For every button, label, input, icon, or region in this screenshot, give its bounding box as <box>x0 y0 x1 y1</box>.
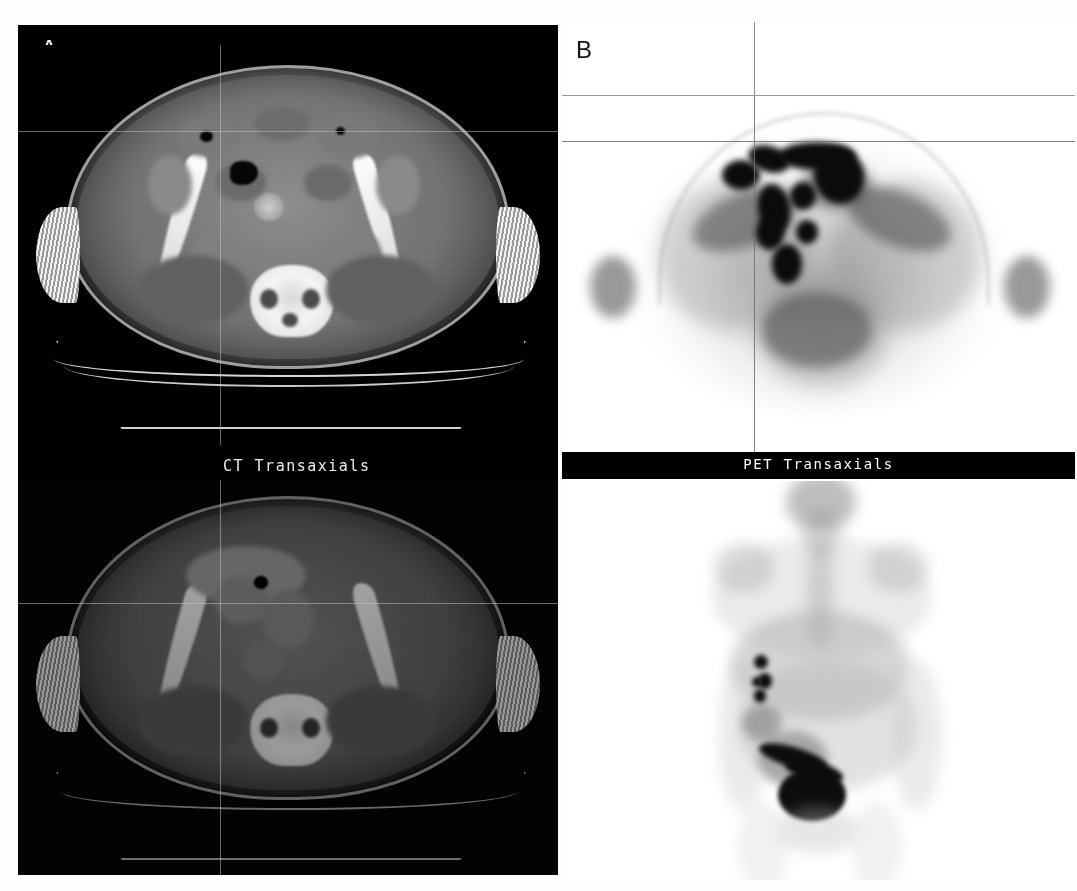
figure-root: A <box>0 0 1077 891</box>
ct-transaxial-upper-image[interactable] <box>18 45 558 445</box>
pet-transaxial-image[interactable] <box>562 95 1075 453</box>
pet-crosshair-vertical <box>754 96 755 453</box>
pet-right-arm-activity <box>1004 256 1050 318</box>
pet-hot-focus-8 <box>772 244 802 284</box>
pet-caption-band: PET Transaxials <box>562 452 1075 479</box>
ct-transaxial-lower-image[interactable] <box>18 480 558 875</box>
panel-a-ct-viewer[interactable]: A <box>18 25 558 875</box>
pet-left-arm-activity <box>590 256 636 318</box>
ct-lower-crosshair-horizontal <box>18 603 558 604</box>
pet-hot-focus-9 <box>790 182 816 210</box>
ct-upper-crosshair-vertical <box>220 45 221 445</box>
pet-crosshair-horizontal <box>562 141 1075 142</box>
pet-crosshair-vertical-upper-extension <box>754 22 755 95</box>
ct-transaxials-caption: CT Transaxials <box>223 457 370 475</box>
pet-mip-image[interactable] <box>562 481 1075 880</box>
mip-pelvis <box>778 807 858 853</box>
ct-upper-crosshair-horizontal <box>18 131 558 132</box>
ct-couch-arc-lower <box>60 772 518 810</box>
pet-hot-focus-7 <box>796 220 818 244</box>
mip-hot-focus-1 <box>754 655 768 669</box>
panel-b-pet-viewer[interactable]: B <box>562 22 1077 880</box>
pet-pelvic-floor-activity <box>762 292 872 368</box>
mip-thigh-left <box>738 801 788 880</box>
panel-b-label: B <box>576 36 592 64</box>
ct-couch-trapezoid <box>56 341 526 429</box>
mip-hot-focus-4 <box>752 677 762 687</box>
mip-shoulder-right <box>868 543 928 593</box>
mip-flank-right <box>892 661 942 811</box>
mip-thigh-right <box>852 801 902 880</box>
pet-transaxials-caption: PET Transaxials <box>562 456 1075 472</box>
mip-hot-focus-3 <box>754 689 766 703</box>
mip-shoulder-left <box>714 543 774 593</box>
ct-lower-crosshair-vertical <box>220 480 221 875</box>
